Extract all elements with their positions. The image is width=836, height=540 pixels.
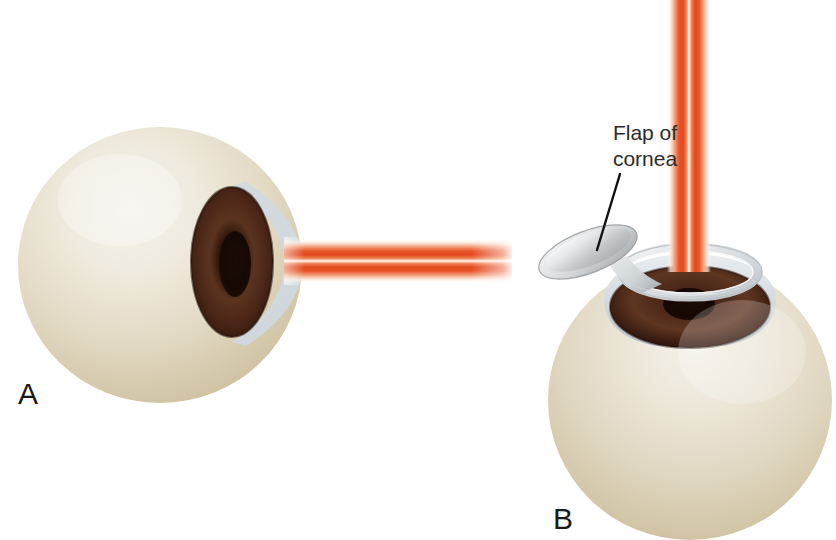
pupil-a (219, 231, 251, 297)
lasik-illustration: A (0, 0, 836, 540)
flap-callout-line2: cornea (613, 147, 678, 170)
iris-group-a (191, 187, 273, 337)
beam-fade-horizontal (284, 237, 512, 285)
panel-letter-b: B (553, 502, 573, 535)
panel-letter-a: A (18, 377, 38, 410)
sclera-highlight-b (678, 300, 806, 404)
panel-b: Flap of cornea B (532, 0, 832, 540)
figure-container: A (0, 0, 836, 540)
sclera-highlight-a (58, 154, 182, 246)
laser-beam-horizontal (284, 237, 512, 285)
panel-a: A (18, 127, 512, 410)
flap-callout-line1: Flap of (613, 121, 677, 144)
